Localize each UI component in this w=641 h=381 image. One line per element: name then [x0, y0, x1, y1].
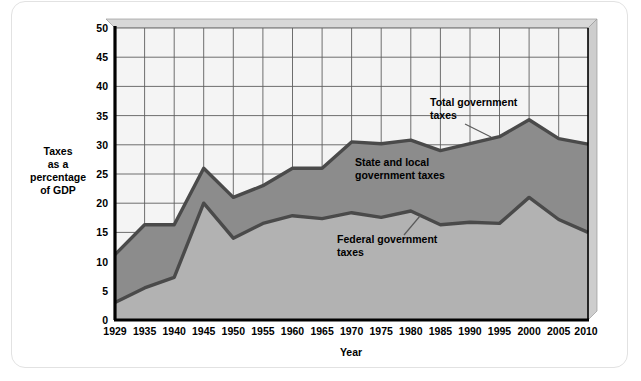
x-tick-labels: 1929 1935 1940 1945 1950 1955 1960 1965 … [103, 325, 598, 337]
y-tick-labels: 50 45 40 35 30 25 20 15 10 5 0 [96, 22, 108, 326]
x-tick-label: 1990 [458, 325, 482, 337]
x-tick-label: 1980 [399, 325, 423, 337]
x-tick-label: 2005 [547, 325, 571, 337]
y-tick-label: 45 [96, 51, 108, 63]
y-tick-label: 10 [96, 256, 108, 268]
x-tick-label: 1965 [310, 325, 334, 337]
x-tick-label: 1940 [163, 325, 187, 337]
annotation-total-government-taxes-line: Total government [430, 96, 518, 108]
x-tick-label: 1975 [370, 325, 394, 337]
y-tick-label: 40 [96, 80, 108, 92]
x-tick-label: 1945 [192, 325, 216, 337]
y-tick-label: 5 [102, 285, 108, 297]
y-tick-label: 15 [96, 226, 108, 238]
x-tick-label: 2000 [517, 325, 541, 337]
y-tick-label: 25 [96, 168, 108, 180]
y-axis-title: Taxes as a percentage of GDP [30, 145, 86, 196]
y-tick-label: 50 [96, 22, 108, 34]
x-tick-label: 1995 [488, 325, 512, 337]
y-tick-label: 35 [96, 110, 108, 122]
annotation-total-government-taxes-line: taxes [430, 109, 457, 121]
y-axis-title-line: of GDP [40, 184, 76, 196]
annotation-federal-line: Federal government [337, 233, 438, 245]
y-axis-title-line: percentage [30, 171, 86, 183]
y-tick-label: 20 [96, 197, 108, 209]
x-axis-title: Year [340, 346, 362, 358]
x-tick-label: 1935 [133, 325, 157, 337]
annotation-federal-line: taxes [337, 246, 364, 258]
y-axis-title-line: as a [48, 158, 69, 170]
annotation-state-and-local-line: government taxes [355, 169, 445, 181]
x-tick-label: 1950 [222, 325, 246, 337]
x-tick-label: 1929 [103, 325, 127, 337]
y-axis-title-line: Taxes [44, 145, 73, 157]
x-tick-label: 1985 [429, 325, 453, 337]
x-tick-label: 1970 [340, 325, 364, 337]
annotation-state-and-local-line: State and local [355, 156, 429, 168]
x-tick-label: 1955 [251, 325, 275, 337]
y-tick-label: 30 [96, 139, 108, 151]
x-tick-label: 1960 [281, 325, 305, 337]
x-tick-label: 2010 [574, 325, 598, 337]
tax-revenue-area-chart: 50 45 40 35 30 25 20 15 10 5 0 1929 1935… [0, 0, 641, 381]
